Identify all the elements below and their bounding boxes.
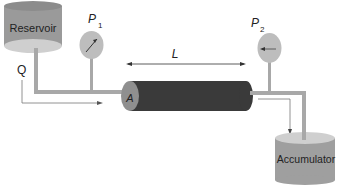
pressure-gauge-outlet xyxy=(258,33,282,93)
area-label: A xyxy=(125,92,133,104)
pressure-gauge-inlet xyxy=(80,31,104,92)
reservoir-label: Reservoir xyxy=(9,22,56,34)
gauge-p1-label: P xyxy=(88,12,96,26)
gauge-p2-label: P xyxy=(251,16,259,30)
length-label: L xyxy=(172,47,179,61)
outlet-pipe xyxy=(250,91,306,95)
hydraulic-line-diagram: Reservoir P 1 Q L A P 2 xyxy=(0,0,341,187)
inlet-pipe xyxy=(34,90,126,94)
length-dimension-arrow xyxy=(126,62,246,66)
reservoir-outlet-pipe xyxy=(34,48,38,93)
accumulator-label: Accumulator xyxy=(277,153,336,165)
outlet-flow-arrow xyxy=(258,99,292,135)
pipe-segment-cylinder xyxy=(121,81,253,111)
gauge-p1-subscript: 1 xyxy=(98,21,103,30)
gauge-p2-subscript: 2 xyxy=(260,25,265,34)
flow-label: Q xyxy=(17,63,26,77)
